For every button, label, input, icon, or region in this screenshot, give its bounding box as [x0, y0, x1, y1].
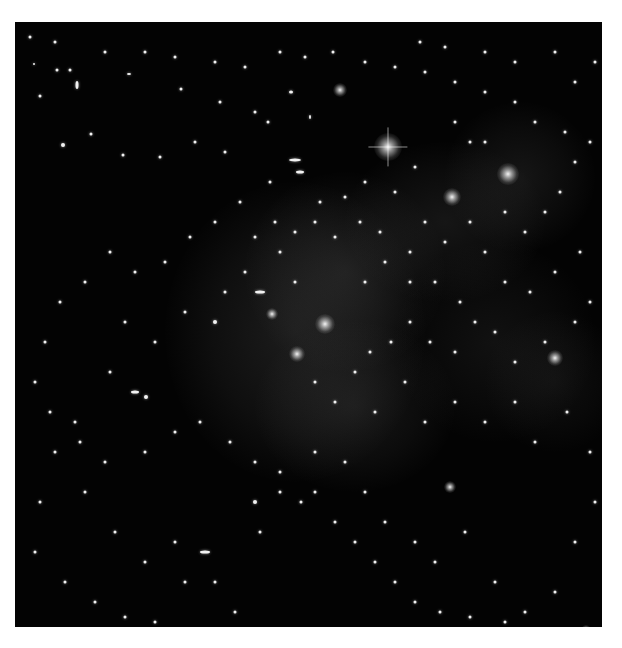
galaxy — [219, 101, 222, 104]
diffuse-halo — [255, 322, 455, 492]
diffuse-halo — [485, 312, 602, 452]
galaxy — [109, 251, 112, 254]
galaxy — [504, 621, 507, 624]
galaxy — [364, 61, 367, 64]
galaxy — [154, 621, 157, 624]
galaxy — [574, 321, 577, 324]
galaxy — [39, 95, 42, 98]
galaxy — [229, 441, 232, 444]
galaxy — [554, 51, 557, 54]
galaxy — [300, 501, 303, 504]
galaxy — [424, 221, 427, 224]
bright-galaxy — [333, 83, 347, 97]
galaxy — [134, 271, 137, 274]
galaxy — [314, 451, 317, 454]
diffuse-halo — [245, 172, 445, 372]
diffuse-halo — [445, 102, 595, 252]
galaxy — [524, 611, 527, 614]
galaxy — [484, 251, 487, 254]
galaxy — [514, 61, 517, 64]
galaxy — [564, 131, 567, 134]
galaxy — [49, 411, 52, 414]
galaxy — [304, 56, 307, 59]
galaxy — [469, 141, 472, 144]
galaxy — [124, 321, 127, 324]
galaxy — [534, 121, 537, 124]
galaxy — [104, 51, 107, 54]
galaxy — [254, 236, 257, 239]
galaxy — [469, 221, 472, 224]
galaxy — [314, 221, 317, 224]
galaxy — [374, 561, 377, 564]
galaxy — [253, 500, 257, 504]
galaxy — [559, 191, 562, 194]
galaxy — [554, 271, 557, 274]
galaxy — [434, 281, 437, 284]
galaxy — [174, 541, 177, 544]
galaxy — [194, 141, 197, 144]
galaxy — [94, 601, 97, 604]
galaxy — [279, 51, 282, 54]
galaxy — [344, 461, 347, 464]
galaxy — [414, 601, 417, 604]
galaxy — [131, 391, 139, 394]
galaxy — [369, 351, 372, 354]
galaxy — [314, 491, 317, 494]
diffraction-spike — [388, 127, 389, 166]
galaxy — [199, 421, 202, 424]
galaxy — [159, 156, 162, 159]
galaxy — [379, 231, 382, 234]
galaxy — [469, 616, 472, 619]
galaxy — [434, 561, 437, 564]
galaxy — [224, 291, 227, 294]
galaxy — [34, 551, 37, 554]
galaxy — [514, 401, 517, 404]
galaxy — [364, 281, 367, 284]
galaxy — [409, 281, 412, 284]
galaxy — [174, 431, 177, 434]
galaxy — [514, 361, 517, 364]
galaxy — [589, 141, 592, 144]
galaxy — [574, 81, 577, 84]
galaxy — [84, 281, 87, 284]
galaxy — [504, 281, 507, 284]
galaxy — [239, 201, 242, 204]
galaxy — [56, 69, 59, 72]
galaxy — [39, 501, 42, 504]
galaxy — [534, 441, 537, 444]
galaxy — [594, 61, 597, 64]
galaxy — [84, 491, 87, 494]
galaxy — [309, 115, 311, 119]
galaxy — [74, 421, 77, 424]
galaxy — [394, 581, 397, 584]
galaxy — [184, 311, 187, 314]
galaxy — [554, 591, 557, 594]
galaxy — [404, 381, 407, 384]
galaxy — [484, 421, 487, 424]
galaxy — [566, 411, 569, 414]
galaxy — [514, 101, 517, 104]
galaxy — [154, 341, 157, 344]
galaxy — [144, 561, 147, 564]
galaxy — [54, 41, 57, 44]
galaxy — [589, 301, 592, 304]
galaxy — [224, 151, 227, 154]
galaxy — [390, 341, 393, 344]
galaxy — [374, 411, 377, 414]
galaxy — [459, 301, 462, 304]
galaxy — [294, 231, 297, 234]
galaxy — [69, 69, 72, 72]
galaxy — [344, 196, 347, 199]
galaxy — [244, 271, 247, 274]
galaxy — [214, 61, 217, 64]
galaxy — [414, 541, 417, 544]
galaxy — [59, 301, 62, 304]
galaxy — [544, 211, 547, 214]
galaxy — [504, 211, 507, 214]
galaxy — [334, 401, 337, 404]
galaxy — [214, 221, 217, 224]
bright-galaxy — [497, 163, 519, 185]
galaxy — [189, 236, 192, 239]
galaxy — [214, 581, 217, 584]
galaxy — [364, 181, 367, 184]
